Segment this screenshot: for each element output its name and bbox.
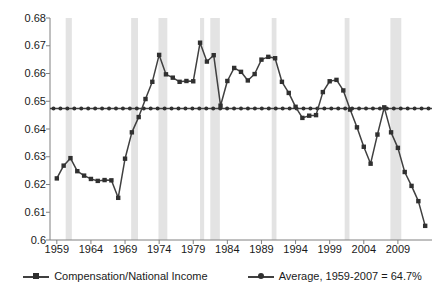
data-point-marker <box>266 55 270 59</box>
y-tick-label: 0.68 <box>2 13 46 24</box>
legend-item[interactable]: Average, 1959-2007 = 64.7% <box>248 270 422 282</box>
data-point-marker <box>396 146 400 150</box>
average-line-marker <box>253 106 257 110</box>
data-point-marker <box>280 80 284 84</box>
y-tick-label: 0.64 <box>2 124 46 135</box>
average-line-marker <box>190 106 194 110</box>
data-point-marker <box>327 79 331 83</box>
average-line-marker <box>204 106 208 110</box>
y-tick-label: 0.62 <box>2 179 46 190</box>
average-line-marker <box>51 106 55 110</box>
average-line-marker <box>58 106 62 110</box>
average-line-marker <box>86 106 90 110</box>
legend-item[interactable]: Compensation/National Income <box>23 270 207 282</box>
x-tick-label: 2009 <box>378 243 418 255</box>
average-line-marker <box>65 106 69 110</box>
average-line-marker <box>79 106 83 110</box>
average-line-markers <box>51 106 430 110</box>
average-line-marker <box>329 106 333 110</box>
legend-marker <box>33 273 39 279</box>
average-line-marker <box>343 106 347 110</box>
y-tick-label: 0.63 <box>2 151 46 162</box>
data-point-marker <box>116 196 120 200</box>
average-line-marker <box>413 106 417 110</box>
average-line-marker <box>239 106 243 110</box>
legend-label: Average, 1959-2007 = 64.7% <box>279 270 422 282</box>
average-line-marker <box>197 106 201 110</box>
data-point-marker <box>314 113 318 117</box>
average-line-marker <box>357 106 361 110</box>
average-line-marker <box>72 106 76 110</box>
data-point-marker <box>164 72 168 76</box>
data-point-marker <box>109 178 113 182</box>
average-line-marker <box>378 106 382 110</box>
average-line-marker <box>246 106 250 110</box>
data-point-marker <box>218 103 222 107</box>
data-point-marker <box>68 156 72 160</box>
average-line-marker <box>211 106 215 110</box>
data-point-marker <box>382 105 386 109</box>
average-line-marker <box>364 106 368 110</box>
average-line-marker <box>135 106 139 110</box>
chart-plot-svg <box>50 18 432 240</box>
data-point-marker <box>184 79 188 83</box>
data-point-marker <box>348 107 352 111</box>
average-line-marker <box>392 106 396 110</box>
average-line-marker <box>183 106 187 110</box>
data-point-marker <box>96 179 100 183</box>
data-point-marker <box>171 75 175 79</box>
data-point-marker <box>205 59 209 63</box>
legend-marker <box>258 273 264 279</box>
data-point-marker <box>293 105 297 109</box>
data-point-marker <box>143 97 147 101</box>
average-line-marker <box>322 106 326 110</box>
data-point-marker <box>198 41 202 45</box>
average-line-marker <box>302 106 306 110</box>
average-line-marker <box>149 106 153 110</box>
data-point-marker <box>403 170 407 174</box>
recession-band <box>131 18 138 240</box>
recession-band <box>272 18 277 240</box>
average-line-marker <box>128 106 132 110</box>
average-line-marker <box>225 106 229 110</box>
average-line-marker <box>107 106 111 110</box>
data-point-marker <box>252 72 256 76</box>
data-point-marker <box>287 91 291 95</box>
data-point-marker <box>423 224 427 228</box>
data-point-marker <box>341 88 345 92</box>
average-line-marker <box>281 106 285 110</box>
average-line-marker <box>336 106 340 110</box>
data-point-marker <box>362 145 366 149</box>
data-point-marker <box>82 173 86 177</box>
data-series-markers <box>55 41 428 229</box>
compensation-national-income-chart: 0.680.670.660.650.640.630.620.610.6 1959… <box>0 0 445 295</box>
average-line-marker <box>260 106 264 110</box>
average-line-marker <box>399 106 403 110</box>
data-point-marker <box>102 178 106 182</box>
recession-band <box>210 18 220 240</box>
data-point-marker <box>355 125 359 129</box>
legend-label: Compensation/National Income <box>54 270 207 282</box>
average-line-marker <box>274 106 278 110</box>
average-line-marker <box>371 106 375 110</box>
data-point-marker <box>259 57 263 61</box>
data-point-marker <box>75 169 79 173</box>
data-point-marker <box>191 79 195 83</box>
average-line-marker <box>121 106 125 110</box>
average-line-marker <box>176 106 180 110</box>
data-point-marker <box>55 176 59 180</box>
plot-area <box>50 18 432 240</box>
data-point-marker <box>416 199 420 203</box>
recession-band <box>390 18 401 240</box>
data-point-marker <box>225 79 229 83</box>
y-tick-label: 0.66 <box>2 68 46 79</box>
y-tick-label: 0.61 <box>2 207 46 218</box>
data-point-marker <box>232 66 236 70</box>
data-point-marker <box>239 70 243 74</box>
data-point-marker <box>307 113 311 117</box>
data-point-marker <box>157 53 161 57</box>
data-point-marker <box>177 80 181 84</box>
x-axis: 1959196419691974197919841989199419992004… <box>0 243 445 259</box>
data-point-marker <box>389 130 393 134</box>
chart-legend: Compensation/National IncomeAverage, 195… <box>0 266 445 286</box>
